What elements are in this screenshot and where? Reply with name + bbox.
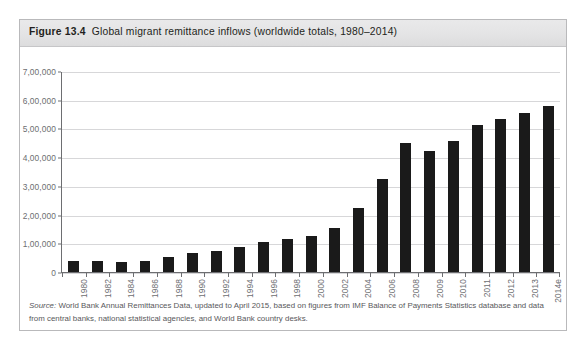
bar — [258, 242, 269, 272]
figure-container: Figure 13.4 Global migrant remittance in… — [19, 19, 567, 331]
x-axis-tick-cell — [157, 273, 181, 277]
bar — [234, 247, 245, 272]
bar-slot — [323, 72, 347, 272]
bar-slot — [394, 72, 418, 272]
y-axis-tick-label: 5,00,000 — [23, 124, 56, 134]
x-axis-tick-cell — [394, 273, 418, 277]
bar-slot — [370, 72, 394, 272]
x-axis-tick-mark — [204, 273, 205, 277]
bar — [353, 208, 364, 272]
figure-caption-text: Global migrant remittance inflows (world… — [86, 26, 398, 37]
x-axis-tick-mark — [394, 273, 395, 277]
figure-caption-inner: Global migrant remittance inflows (world… — [92, 26, 397, 37]
x-axis-tick-cell — [370, 273, 394, 277]
x-axis-tick-mark — [109, 273, 110, 277]
bar-slot — [347, 72, 371, 272]
x-axis-tick-cell — [133, 273, 157, 277]
x-axis-tick-mark — [299, 273, 300, 277]
bar — [329, 228, 340, 272]
x-axis-tick-mark — [418, 273, 419, 277]
bar — [377, 179, 388, 272]
bar — [163, 257, 174, 272]
x-axis-tick-mark — [513, 273, 514, 277]
y-axis-tick-label: 0 — [51, 268, 56, 278]
bar-slot — [228, 72, 252, 272]
bar — [519, 113, 530, 272]
x-axis-tick-cell — [228, 273, 252, 277]
bar-slot — [157, 72, 181, 272]
bar — [472, 125, 483, 272]
y-axis-tick-label: 3,00,000 — [23, 182, 56, 192]
x-axis-tick-mark — [347, 273, 348, 277]
bar-slot — [489, 72, 513, 272]
bar-slot — [133, 72, 157, 272]
bar — [306, 236, 317, 272]
y-axis-tick-label: 7,00,000 — [23, 67, 56, 77]
x-axis-tick-mark — [62, 273, 63, 277]
x-axis-tick-cell — [181, 273, 205, 277]
bar-slot — [513, 72, 537, 272]
bars-group — [62, 72, 560, 272]
x-axis-tick-mark — [442, 273, 443, 277]
bar — [68, 261, 79, 272]
x-axis-tick-mark — [133, 273, 134, 277]
bar — [187, 253, 198, 272]
x-axis-tick-cell — [418, 273, 442, 277]
bar — [424, 151, 435, 272]
bar — [211, 251, 222, 272]
y-axis-tick-label: 4,00,000 — [23, 153, 56, 163]
x-axis-tick-mark — [489, 273, 490, 277]
x-axis-tick-cell — [299, 273, 323, 277]
bar — [92, 261, 103, 272]
bar — [543, 106, 554, 272]
x-axis-tick-mark — [323, 273, 324, 277]
x-axis-tick-cell — [252, 273, 276, 277]
x-axis-tick-cell — [275, 273, 299, 277]
source-note: Source: World Bank Annual Remittances Da… — [29, 300, 556, 326]
bar-slot — [181, 72, 205, 272]
bar — [448, 141, 459, 272]
x-axis-tick-cell — [347, 273, 371, 277]
x-axis-tick-mark — [275, 273, 276, 277]
x-axis-tick-mark — [228, 273, 229, 277]
bar-slot — [442, 72, 466, 272]
bar-slot — [86, 72, 110, 272]
x-axis-tick-mark — [86, 273, 87, 277]
chart-plot-region: 01,00,0002,00,0003,00,0004,00,0005,00,00… — [20, 47, 566, 293]
x-axis-tick-mark — [536, 273, 537, 277]
x-axis-tick-mark — [559, 273, 560, 277]
bar-slot — [275, 72, 299, 272]
bar-slot — [418, 72, 442, 272]
bar-slot — [62, 72, 86, 272]
y-axis-tick-label: 2,00,000 — [23, 211, 56, 221]
figure-caption: Figure 13.4 Global migrant remittance in… — [29, 26, 397, 37]
y-axis-tick-label: 1,00,000 — [23, 239, 56, 249]
chart-plot-area: 01,00,0002,00,0003,00,0004,00,0005,00,00… — [61, 72, 560, 273]
bar — [140, 261, 151, 272]
bar — [282, 239, 293, 272]
figure-header: Figure 13.4 Global migrant remittance in… — [20, 20, 566, 47]
x-axis-tick-cell — [513, 273, 537, 277]
bar — [400, 143, 411, 272]
x-axis-tick-cell — [465, 273, 489, 277]
x-axis-tick-cell — [109, 273, 133, 277]
x-axis-tick-cell — [489, 273, 513, 277]
x-axis-tick-cell — [536, 273, 560, 277]
x-axis-tick-mark — [370, 273, 371, 277]
bar-slot — [536, 72, 560, 272]
bar-slot — [299, 72, 323, 272]
bar-slot — [252, 72, 276, 272]
x-axis-tick-cell — [62, 273, 86, 277]
x-axis-tick-mark — [181, 273, 182, 277]
bar — [116, 262, 127, 272]
x-axis-tick-mark — [252, 273, 253, 277]
figure-number-label: Figure 13.4 — [29, 26, 86, 37]
x-axis-tick-cell — [86, 273, 110, 277]
x-axis-ticks-group — [62, 273, 560, 277]
source-text: World Bank Annual Remittances Data, upda… — [29, 301, 544, 323]
x-axis-tick-mark — [157, 273, 158, 277]
bar-slot — [109, 72, 133, 272]
x-axis-tick-mark — [465, 273, 466, 277]
bar — [495, 119, 506, 272]
bar-slot — [204, 72, 228, 272]
